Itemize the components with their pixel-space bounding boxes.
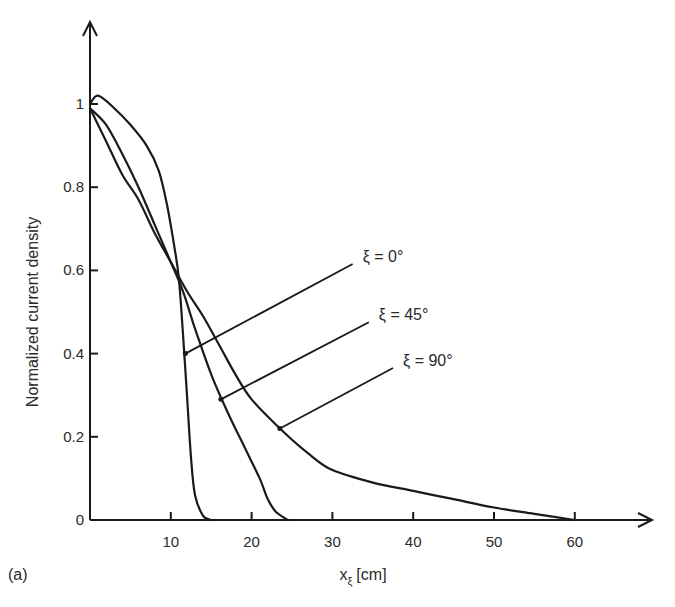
y-axis-label: Normalized current density xyxy=(24,217,41,407)
marker-dot-icon xyxy=(183,351,188,356)
y-ticks: 00.20.40.60.81 xyxy=(63,95,98,528)
series-line-2 xyxy=(90,108,575,520)
series-label-1: ξ = 45° xyxy=(379,306,429,324)
panel-label: (a) xyxy=(8,566,28,583)
x-tick-label: 50 xyxy=(486,533,503,550)
x-axis-label: xξ[cm] xyxy=(339,566,386,587)
series-line-0 xyxy=(90,96,211,520)
y-tick-label: 0.8 xyxy=(63,178,84,195)
x-ticks: 102030405060 xyxy=(162,512,583,550)
y-tick-label: 0 xyxy=(76,511,84,528)
leader-line xyxy=(280,368,393,428)
x-axis-label-subscript: ξ xyxy=(347,575,352,587)
leader-line xyxy=(185,264,352,354)
x-tick-label: 10 xyxy=(162,533,179,550)
y-tick-label: 1 xyxy=(76,95,84,112)
curves xyxy=(90,96,575,520)
x-tick-label: 30 xyxy=(324,533,341,550)
y-tick-label: 0.2 xyxy=(63,428,84,445)
series-label-0: ξ = 0° xyxy=(363,248,404,266)
marker-dot-icon xyxy=(277,426,282,431)
marker-dot-icon xyxy=(218,397,223,402)
x-axis-label-main: x xyxy=(339,566,347,583)
series-label-2: ξ = 90° xyxy=(403,352,453,370)
x-tick-label: 40 xyxy=(405,533,422,550)
y-tick-label: 0.4 xyxy=(63,345,84,362)
axes xyxy=(83,22,652,527)
x-tick-label: 60 xyxy=(566,533,583,550)
y-tick-label: 0.6 xyxy=(63,261,84,278)
x-tick-label: 20 xyxy=(243,533,260,550)
leader-line xyxy=(221,322,369,399)
chart: 102030405060 00.20.40.60.81 ξ = 0°ξ = 45… xyxy=(0,0,675,607)
x-axis-label-unit: [cm] xyxy=(356,566,386,583)
